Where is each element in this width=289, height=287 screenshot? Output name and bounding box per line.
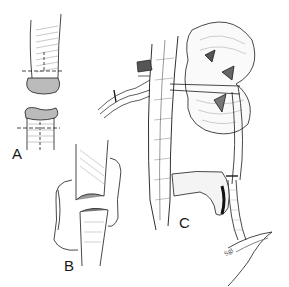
panel-c-kidney: [170, 22, 255, 184]
label-panel-c: C: [179, 215, 190, 230]
surgical-illustration: [0, 0, 289, 287]
panel-a-ureter-ends: [17, 14, 64, 150]
label-panel-b: B: [64, 258, 74, 273]
label-panel-a: A: [12, 146, 22, 161]
panel-c-vessels: [98, 60, 152, 118]
panel-c-bladder-flap: [172, 171, 229, 215]
panel-c-ureter: [226, 176, 272, 286]
panel-b-anastomosis: [54, 140, 121, 266]
panel-c-psoas-strip: [148, 36, 178, 230]
